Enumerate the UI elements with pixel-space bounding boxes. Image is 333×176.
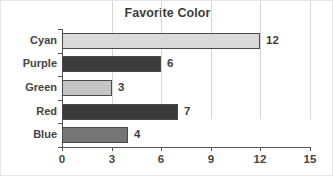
x-tick-3 xyxy=(112,147,113,151)
category-label-green: Green xyxy=(0,81,57,93)
y-tick-cyan xyxy=(58,29,62,30)
x-tick-15 xyxy=(310,147,311,151)
y-tick-end xyxy=(58,147,62,148)
x-tick-label-12: 12 xyxy=(240,153,280,165)
x-tick-12 xyxy=(260,147,261,151)
bar-red xyxy=(62,104,178,120)
x-tick-label-0: 0 xyxy=(42,153,82,165)
bar-cyan xyxy=(62,33,260,49)
category-label-blue: Blue xyxy=(0,128,57,140)
bar-value-cyan: 12 xyxy=(266,34,279,46)
x-tick-0 xyxy=(62,147,63,151)
gridline-x-15 xyxy=(310,1,311,119)
bar-value-green: 3 xyxy=(118,81,124,93)
y-tick-purple xyxy=(58,53,62,54)
bar-value-red: 7 xyxy=(184,105,190,117)
x-tick-6 xyxy=(161,147,162,151)
y-tick-green xyxy=(58,76,62,77)
gridline-x-6 xyxy=(161,1,162,119)
gridline-x-9 xyxy=(211,1,212,119)
bar-green xyxy=(62,80,112,96)
category-label-red: Red xyxy=(0,105,57,117)
bar-chart: Favorite Color 03691215 126374 CyanPurpl… xyxy=(0,0,333,176)
gridline-x-12 xyxy=(260,1,261,119)
x-axis-line xyxy=(62,147,311,148)
x-tick-label-6: 6 xyxy=(141,153,181,165)
y-tick-red xyxy=(58,100,62,101)
bar-purple xyxy=(62,56,161,72)
x-tick-label-15: 15 xyxy=(290,153,330,165)
category-label-cyan: Cyan xyxy=(0,34,57,46)
bar-blue xyxy=(62,127,128,143)
x-tick-label-9: 9 xyxy=(191,153,231,165)
bar-value-purple: 6 xyxy=(167,57,173,69)
x-tick-9 xyxy=(211,147,212,151)
x-tick-label-3: 3 xyxy=(92,153,132,165)
chart-title: Favorite Color xyxy=(1,6,333,20)
bar-value-blue: 4 xyxy=(134,128,140,140)
y-tick-blue xyxy=(58,123,62,124)
category-label-purple: Purple xyxy=(0,57,57,69)
